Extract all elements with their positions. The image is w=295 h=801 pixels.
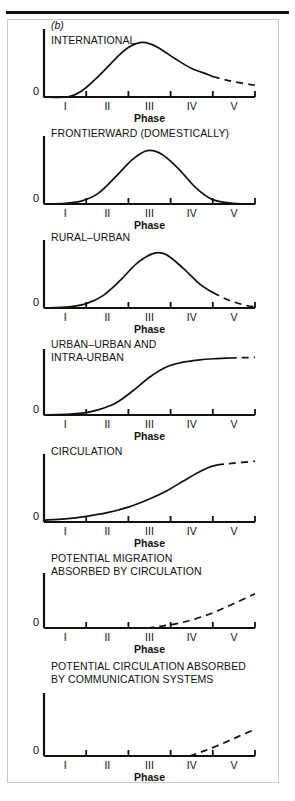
x-tick-label: V	[230, 631, 237, 643]
x-tick-label: III	[145, 525, 154, 537]
x-tick-label: I	[64, 525, 67, 537]
x-tick-label: III	[145, 100, 154, 112]
x-tick-label: II	[104, 311, 110, 323]
chart-panel: RURAL–URBAN0IIIIIIIVVPhase	[7, 230, 279, 337]
x-tick-label: I	[64, 207, 67, 219]
panel-title: FRONTIERWARD (DOMESTICALLY)	[51, 127, 229, 140]
chart-panel: POTENTIAL MIGRATION ABSORBED BY CIRCULAT…	[7, 551, 279, 659]
x-tick-label: V	[230, 100, 237, 112]
figure-root: (b)INTERNATIONAL0IIIIIIIVVPhaseFRONTIERW…	[0, 0, 295, 801]
y-axis-zero-label: 0	[33, 744, 39, 756]
x-tick-label: V	[230, 525, 237, 537]
y-axis-zero-label: 0	[33, 510, 39, 522]
chart-panel: (b)INTERNATIONAL0IIIIIIIVVPhase	[7, 19, 279, 126]
x-tick-label: I	[64, 311, 67, 323]
y-axis-zero-label: 0	[33, 85, 39, 97]
x-axis-title: Phase	[134, 643, 165, 655]
x-tick-label: V	[230, 207, 237, 219]
x-tick-label: I	[64, 759, 67, 771]
x-tick-label: V	[230, 759, 237, 771]
x-tick-label: III	[145, 311, 154, 323]
curve-dashed-segment	[190, 729, 255, 756]
x-tick-label: V	[230, 311, 237, 323]
panel-title: POTENTIAL CIRCULATION ABSORBED BY COMMUN…	[51, 660, 246, 685]
curve-dashed-segment	[213, 293, 255, 307]
x-tick-label: I	[64, 418, 67, 430]
panel-stack: (b)INTERNATIONAL0IIIIIIIVVPhaseFRONTIERW…	[7, 19, 279, 783]
curve-dashed-segment	[230, 357, 255, 358]
y-axis-zero-label: 0	[33, 403, 39, 415]
y-axis-zero-label: 0	[33, 616, 39, 628]
curve-solid-segment	[44, 465, 217, 520]
x-axis-title: Phase	[134, 112, 165, 124]
x-axis-title: Phase	[134, 537, 165, 549]
chart-panel: URBAN–URBAN AND INTRA-URBAN0IIIIIIIVVPha…	[7, 337, 279, 444]
x-tick-label: IV	[187, 525, 197, 537]
x-tick-label: IV	[187, 207, 197, 219]
chart-panel: POTENTIAL CIRCULATION ABSORBED BY COMMUN…	[7, 659, 279, 783]
panel-axes-and-curve	[7, 126, 279, 230]
panel-axes-and-curve	[7, 444, 279, 551]
x-tick-label: III	[145, 631, 154, 643]
x-tick-label: II	[104, 100, 110, 112]
panel-title: POTENTIAL MIGRATION ABSORBED BY CIRCULAT…	[51, 552, 202, 577]
x-tick-label: IV	[187, 311, 197, 323]
curve-solid-segment	[44, 253, 213, 308]
panel-title: CIRCULATION	[51, 445, 123, 458]
figure-part-label: (b)	[51, 19, 64, 31]
x-tick-label: II	[104, 759, 110, 771]
x-tick-label: III	[145, 418, 154, 430]
panel-title: URBAN–URBAN AND INTRA-URBAN	[51, 338, 156, 363]
panel-title: RURAL–URBAN	[51, 231, 130, 244]
curve-dashed-segment	[217, 461, 255, 465]
panel-axes-and-curve	[7, 230, 279, 337]
x-tick-label: I	[64, 100, 67, 112]
chart-panel: CIRCULATION0IIIIIIIVVPhase	[7, 444, 279, 551]
x-tick-label: II	[104, 631, 110, 643]
x-tick-label: V	[230, 418, 237, 430]
chart-panel: FRONTIERWARD (DOMESTICALLY)0IIIIIIIVVPha…	[7, 126, 279, 230]
x-tick-label: III	[145, 207, 154, 219]
x-axis-title: Phase	[134, 771, 165, 783]
x-tick-label: III	[145, 759, 154, 771]
top-rule-divider	[6, 11, 289, 14]
curve-dashed-segment	[147, 594, 255, 628]
x-tick-label: II	[104, 525, 110, 537]
x-tick-label: II	[104, 418, 110, 430]
panel-axes-and-curve	[7, 19, 279, 126]
x-tick-label: IV	[187, 631, 197, 643]
x-tick-label: IV	[187, 418, 197, 430]
x-tick-label: II	[104, 207, 110, 219]
x-tick-label: IV	[187, 759, 197, 771]
curve-dashed-segment	[213, 77, 255, 86]
curve-solid-segment	[44, 358, 230, 415]
y-axis-zero-label: 0	[33, 296, 39, 308]
panel-title: INTERNATIONAL	[51, 34, 136, 47]
curve-solid-segment	[44, 42, 213, 97]
x-axis-title: Phase	[134, 430, 165, 442]
x-axis-title: Phase	[134, 323, 165, 335]
y-axis-zero-label: 0	[33, 192, 39, 204]
x-tick-label: IV	[187, 100, 197, 112]
curve-solid-segment	[44, 150, 255, 204]
x-tick-label: I	[64, 631, 67, 643]
